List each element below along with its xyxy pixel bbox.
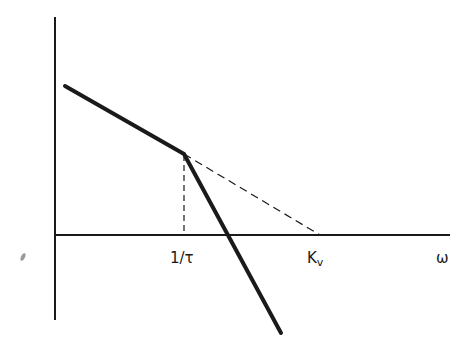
bode-diagram: 1/τ Kv ω xyxy=(0,0,475,354)
tick-label-velocity-gain: Kv xyxy=(307,249,324,269)
tick-label-break-frequency: 1/τ xyxy=(170,249,194,267)
scan-speck xyxy=(19,253,26,262)
x-axis-label-omega: ω xyxy=(436,249,449,267)
magnitude-asymptote xyxy=(65,86,281,333)
